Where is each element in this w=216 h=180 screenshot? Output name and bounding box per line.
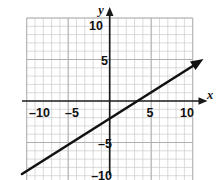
graph-figure: –10 –5 5 10 10 5 –5 –10 y x xyxy=(0,0,216,180)
x-tick-label-5: 5 xyxy=(147,106,154,120)
y-tick-label-10: 10 xyxy=(89,19,103,33)
y-axis-arrowhead xyxy=(106,7,114,16)
x-tick-label-10: 10 xyxy=(180,106,194,120)
y-axis-label: y xyxy=(96,3,104,17)
x-tick-label-neg5: –5 xyxy=(65,106,79,120)
plotted-line-arrowhead xyxy=(190,59,204,70)
x-tick-label-neg10: –10 xyxy=(29,106,50,120)
y-tick-label-5: 5 xyxy=(101,54,108,68)
y-tick-label-neg10: –10 xyxy=(91,169,112,180)
x-axis-label: x xyxy=(206,88,213,102)
y-tick-label-neg5: –5 xyxy=(98,137,112,151)
coordinate-plane-svg: –10 –5 5 10 10 5 –5 –10 y x xyxy=(0,0,216,180)
